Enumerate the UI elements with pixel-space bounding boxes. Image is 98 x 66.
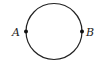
diagram-canvas: A B xyxy=(0,0,98,66)
point-a-dot xyxy=(24,30,28,34)
point-b-label: B xyxy=(85,26,94,39)
circle xyxy=(26,4,82,60)
point-a-label: A xyxy=(11,26,20,39)
point-b-dot xyxy=(80,30,84,34)
